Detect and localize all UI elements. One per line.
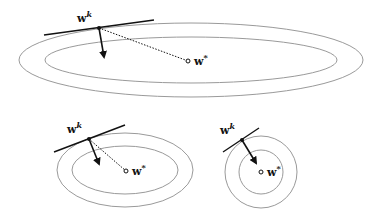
wk-label: wk — [76, 9, 92, 25]
current-iterate-point — [97, 26, 101, 30]
optimum-point — [124, 169, 128, 173]
current-iterate-point — [87, 137, 91, 141]
current-iterate-point — [240, 138, 244, 142]
gradient-descent-diagram: wkw*wkw*wkw* — [0, 0, 380, 220]
wstar-label: w* — [193, 52, 208, 68]
wstar-label: w* — [131, 162, 146, 178]
wk-label: wk — [219, 121, 235, 137]
panel-circular: wkw* — [219, 121, 297, 208]
level-set-contour — [19, 23, 363, 97]
diagram-canvas: wkw*wkw*wkw* — [0, 0, 380, 220]
wk-label: wk — [66, 120, 82, 136]
level-set-contour — [45, 37, 337, 83]
direction-to-optimum-line — [99, 28, 188, 61]
optimum-point — [186, 59, 190, 63]
panel-moderate: wkw* — [54, 120, 193, 207]
wstar-label: w* — [266, 163, 281, 179]
optimum-point — [259, 170, 263, 174]
panel-elongated: wkw* — [19, 9, 363, 97]
